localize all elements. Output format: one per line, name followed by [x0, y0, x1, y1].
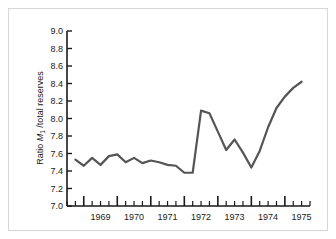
y-axis-group: 7.07.27.47.67.88.08.28.48.68.89.0 — [50, 26, 72, 211]
y-tick-label: 8.4 — [50, 79, 63, 89]
data-series-group — [75, 82, 301, 173]
y-tick-label: 7.2 — [50, 184, 63, 194]
line-chart: 7.07.27.47.67.88.08.28.48.68.89.0 196919… — [0, 0, 336, 239]
y-tick-label: 7.8 — [50, 131, 63, 141]
x-tick-label: 1972 — [191, 212, 211, 222]
y-tick-label: 8.6 — [50, 61, 63, 71]
chart-figure: 7.07.27.47.67.88.08.28.48.68.89.0 196919… — [0, 0, 336, 239]
ylabel-prefix: Ratio — [35, 141, 45, 165]
y-axis-tick-labels: 7.07.27.47.67.88.08.28.48.68.89.0 — [50, 26, 63, 211]
x-tick-label: 1975 — [292, 212, 312, 222]
y-tick-label: 8.2 — [50, 96, 63, 106]
x-tick-label: 1970 — [124, 212, 144, 222]
x-tick-label: 1973 — [225, 212, 245, 222]
y-tick-label: 8.8 — [50, 44, 63, 54]
y-axis-title: Ratio M1 /total reserves — [35, 71, 46, 165]
x-tick-label: 1969 — [91, 212, 111, 222]
data-line — [75, 82, 301, 173]
x-axis-group: 1969197019711972197319741975 — [67, 196, 312, 222]
x-tick-label: 1974 — [258, 212, 278, 222]
y-tick-label: 7.0 — [50, 201, 63, 211]
y-tick-label: 7.4 — [50, 166, 63, 176]
ylabel-suffix: /total reserves — [35, 71, 45, 131]
x-tick-label: 1971 — [158, 212, 178, 222]
y-tick-label: 7.6 — [50, 149, 63, 159]
x-axis-major-ticks — [84, 196, 285, 206]
svg-text:Ratio M1 /total reserves: Ratio M1 /total reserves — [35, 71, 46, 165]
y-tick-label: 8.0 — [50, 114, 63, 124]
y-tick-label: 9.0 — [50, 26, 63, 36]
x-axis-tick-labels: 1969197019711972197319741975 — [91, 212, 312, 222]
